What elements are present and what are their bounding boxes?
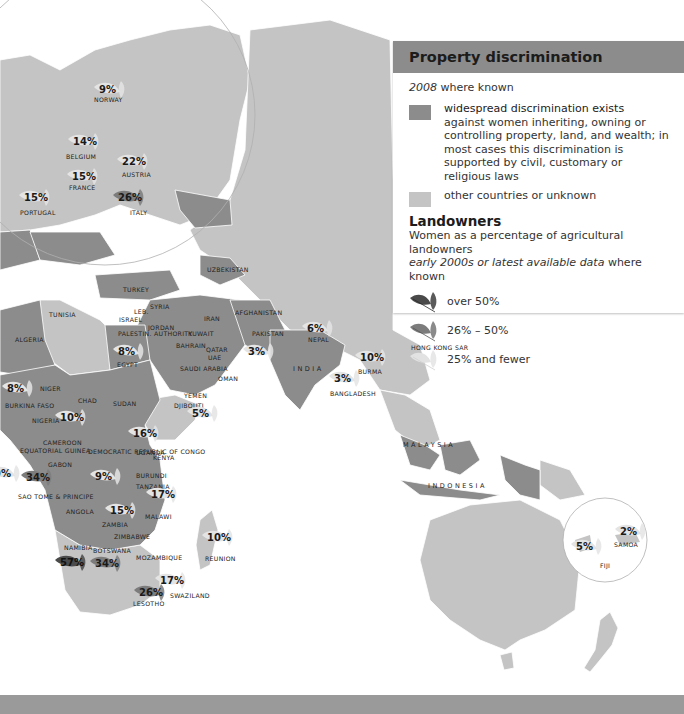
- country-label: SYRIA: [150, 303, 170, 310]
- legend-bin-mid-label: 26% – 50%: [447, 324, 508, 337]
- country-label: SAMOA: [614, 541, 638, 548]
- country-label: CHAD: [78, 397, 97, 404]
- country-label: INDIA: [293, 365, 324, 373]
- country-label: FIJI: [600, 562, 610, 569]
- country-label: BOTSWANA: [93, 547, 131, 554]
- country-label: MOZAMBIQUE: [136, 554, 182, 561]
- country-label: LEB.: [134, 308, 149, 315]
- legend-bin-high-label: over 50%: [447, 295, 499, 308]
- legend-item-discrimination: widespread discrimination exists against…: [409, 102, 670, 183]
- landowner-percent-label: 8%: [7, 383, 24, 394]
- country-label: ZIMBABWE: [114, 533, 150, 540]
- legend-item-discrimination-title: widespread discrimination exists: [444, 102, 670, 116]
- landowner-percent-label: 9%: [99, 84, 116, 95]
- landowner-percent-label: 34%: [95, 558, 119, 569]
- swatch-discrimination: [409, 105, 431, 120]
- country-label: AFGHANISTAN: [235, 309, 282, 316]
- legend-bin-high: over 50%: [409, 287, 670, 316]
- landowner-percent-label: 17%: [151, 489, 175, 500]
- country-label: NAMIBIA: [64, 544, 92, 551]
- legend-year: 2008: [409, 81, 437, 94]
- leaf-icon-light: [409, 348, 439, 372]
- country-label: PALESTIN. AUTHORITY: [118, 330, 192, 337]
- country-label: OMAN: [218, 375, 238, 382]
- legend-subtitle: 2008 where known: [409, 81, 670, 94]
- leaf-icon-dark: [409, 290, 439, 314]
- country-label: GABON: [48, 461, 72, 468]
- country-label: UAE: [208, 354, 222, 361]
- country-label: PAKISTAN: [252, 330, 284, 337]
- landowners-title: Landowners: [409, 213, 670, 229]
- country-label: BAHRAIN: [176, 342, 206, 349]
- landowner-percent-label: 3%: [334, 373, 351, 384]
- landowner-percent-label: 10%: [207, 532, 231, 543]
- leaf-icon-medium: [409, 319, 439, 343]
- country-label: ANGOLA: [66, 508, 94, 515]
- legend-subtitle-rest: where known: [437, 81, 514, 94]
- country-label: MALAWI: [145, 513, 172, 520]
- landowner-percent-label: 9%: [95, 471, 112, 482]
- landowner-percent-label: 9%: [0, 468, 11, 479]
- landowner-percent-label: 57%: [60, 557, 84, 568]
- landowners-subtitle: Women as a percentage of agricultural la…: [409, 229, 670, 256]
- landowner-percent-label: 16%: [133, 428, 157, 439]
- landowner-percent-label: 10%: [360, 352, 384, 363]
- country-label: NIGER: [40, 385, 61, 392]
- country-label: EGYPT: [117, 361, 138, 368]
- country-label: SUDAN: [113, 400, 136, 407]
- legend-panel: Property discrimination 2008 where known…: [393, 41, 684, 313]
- country-label: PORTUGAL: [20, 209, 56, 216]
- country-label: SAO TOME & PRINCIPE: [18, 493, 94, 500]
- country-label: MALAYSIA: [403, 441, 455, 449]
- legend-title: Property discrimination: [409, 49, 603, 65]
- country-label: CAMEROON: [43, 439, 82, 446]
- landowner-percent-label: 15%: [110, 505, 134, 516]
- landowner-percent-label: 8%: [118, 346, 135, 357]
- country-label: IRAN: [204, 315, 220, 322]
- legend-bin-low-label: 25% and fewer: [447, 353, 530, 366]
- landowners-period: early 2000s or latest available data: [409, 256, 604, 269]
- landowner-percent-label: 2%: [620, 526, 637, 537]
- landowner-percent-label: 5%: [576, 541, 593, 552]
- country-label: ZAMBIA: [102, 521, 128, 528]
- landowner-percent-label: 26%: [118, 192, 142, 203]
- country-label: QATAR: [206, 346, 228, 353]
- landowner-percent-label: 15%: [24, 192, 48, 203]
- legend-item-other: other countries or unknown: [409, 189, 670, 207]
- country-label: EQUATORIAL GUINEA: [20, 447, 91, 454]
- landowner-percent-label: 34%: [26, 472, 50, 483]
- landowner-percent-label: 10%: [60, 412, 84, 423]
- country-label: UZBEKISTAN: [207, 266, 249, 273]
- country-label: ITALY: [130, 209, 147, 216]
- swatch-other: [409, 192, 431, 207]
- legend-bin-mid: 26% – 50%: [409, 316, 670, 345]
- landowner-percent-label: 22%: [122, 156, 146, 167]
- country-label: KUWAIT: [188, 330, 214, 337]
- country-label: TUNISIA: [49, 311, 76, 318]
- country-label: TURKEY: [123, 286, 149, 293]
- country-label: AUSTRIA: [122, 171, 151, 178]
- country-label: BELGIUM: [66, 153, 96, 160]
- country-label: SWAZILAND: [170, 592, 210, 599]
- country-label: SAUDI ARABIA: [180, 365, 228, 372]
- country-label: BURKINA FASO: [5, 402, 54, 409]
- legend-item-discrimination-desc: against women inheriting, owning or cont…: [444, 116, 670, 184]
- country-label: Hong Kong SAR: [411, 344, 468, 351]
- landowner-percent-label: 5%: [192, 408, 209, 419]
- country-label: JORDAN: [148, 324, 174, 331]
- bottom-band: [0, 695, 684, 714]
- landowners-subtitle-2: early 2000s or latest available data whe…: [409, 256, 670, 283]
- country-label: YEMEN: [184, 392, 207, 399]
- landowner-percent-label: 6%: [307, 323, 324, 334]
- legend-header: Property discrimination: [393, 41, 684, 73]
- landowner-percent-label: 14%: [73, 136, 97, 147]
- country-label: BANGLADESH: [330, 390, 376, 397]
- legend-item-other-label: other countries or unknown: [444, 189, 596, 203]
- country-label: ISRAEL: [119, 316, 142, 323]
- country-label: ALGERIA: [15, 336, 44, 343]
- landowner-percent-label: 15%: [72, 171, 96, 182]
- landowner-percent-label: 26%: [139, 587, 163, 598]
- country-label: INDONESIA: [428, 482, 487, 490]
- country-label: BURUNDI: [136, 472, 167, 479]
- landowner-percent-label: 3%: [248, 346, 265, 357]
